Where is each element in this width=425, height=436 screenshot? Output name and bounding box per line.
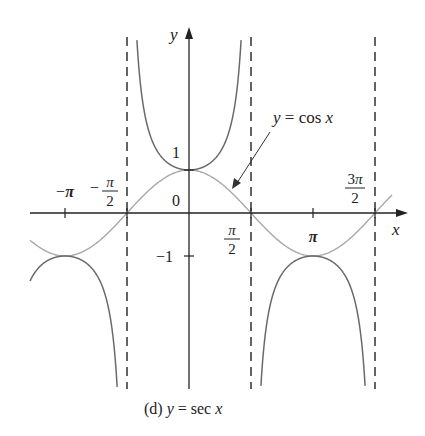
svg-text:2: 2 bbox=[106, 193, 114, 209]
annotation-arrow-line bbox=[237, 132, 270, 183]
sec-graph-figure: y x 0 1 −1 −π−π2π2π3π2 y = cos x (d) y =… bbox=[0, 0, 425, 436]
sec-branch-0 bbox=[30, 256, 117, 387]
axes bbox=[30, 27, 408, 389]
cos-annotation-label: y = cos x bbox=[271, 108, 334, 127]
x-tick-label-half-pi: π2 bbox=[224, 222, 240, 257]
plot-area: y x 0 1 −1 −π−π2π2π3π2 y = cos x (d) y =… bbox=[0, 0, 425, 436]
origin-label: 0 bbox=[172, 192, 180, 209]
svg-text:2: 2 bbox=[351, 190, 359, 206]
x-tick-label-three-half-pi: 3π2 bbox=[345, 171, 365, 206]
labels: y x 0 1 −1 bbox=[156, 25, 400, 265]
svg-text:3π: 3π bbox=[347, 171, 363, 187]
x-axis-label: x bbox=[391, 220, 400, 239]
cos-annotation: y = cos x bbox=[232, 108, 334, 189]
y-axis-arrow-icon bbox=[185, 27, 193, 39]
y-tick-label-1: 1 bbox=[172, 144, 180, 161]
x-tick-label-pi: π bbox=[309, 228, 319, 245]
x-tick-label-neg-half-pi: −π2 bbox=[90, 174, 118, 209]
x-tick-labels: −π−π2π2π3π2 bbox=[56, 171, 365, 257]
svg-text:π: π bbox=[106, 174, 114, 190]
y-axis-label: y bbox=[168, 25, 178, 44]
svg-text:−: − bbox=[90, 179, 99, 196]
svg-text:2: 2 bbox=[228, 241, 236, 257]
x-axis-arrow-icon bbox=[396, 209, 408, 217]
y-tick-label-neg1: −1 bbox=[156, 248, 173, 265]
sec-branch-2 bbox=[261, 256, 365, 386]
x-tick-label-neg-pi: −π bbox=[56, 183, 75, 200]
figure-caption: (d) y = sec x bbox=[144, 400, 222, 418]
svg-text:π: π bbox=[228, 222, 236, 238]
